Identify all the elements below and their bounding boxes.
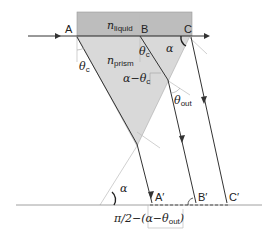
liquid-layer bbox=[77, 12, 192, 36]
label-B-prime: B′ bbox=[198, 191, 207, 203]
label-alpha-bottom: α bbox=[120, 182, 128, 195]
arrow-icon bbox=[55, 33, 61, 39]
label-C: C bbox=[184, 23, 192, 35]
label-C-prime: C′ bbox=[229, 191, 239, 203]
angle-arc-theta-out bbox=[171, 88, 180, 93]
arrow-icon bbox=[201, 96, 207, 104]
angle-arc-b-prime bbox=[188, 198, 193, 205]
arrow-icon bbox=[179, 135, 185, 143]
label-A-prime: A′ bbox=[155, 191, 164, 203]
ray-C bbox=[191, 37, 227, 203]
arrow-icon bbox=[204, 33, 210, 39]
angle-arc-theta-c bbox=[77, 48, 84, 50]
prism-diagram: A B C A′ B′ C′ nliquid nprism θc θc α α−… bbox=[0, 0, 276, 236]
label-theta-c-left: θc bbox=[79, 60, 90, 74]
angle-arc-alpha-bottom bbox=[112, 192, 116, 205]
label-A: A bbox=[65, 23, 73, 35]
label-B: B bbox=[141, 23, 148, 35]
formula-label: π/2−(α−θout) bbox=[113, 212, 184, 226]
prism-face-extension bbox=[100, 146, 137, 205]
label-theta-out: θout bbox=[174, 94, 193, 108]
label-alpha-minus-theta-c: α−θc bbox=[123, 72, 150, 86]
label-alpha-top: α bbox=[166, 42, 174, 55]
normal-line-apex bbox=[137, 132, 160, 148]
arrow-icon bbox=[148, 191, 154, 199]
